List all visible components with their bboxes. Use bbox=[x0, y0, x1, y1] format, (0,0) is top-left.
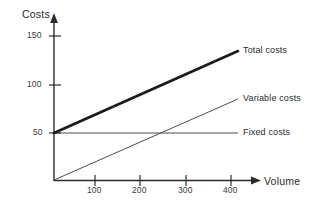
series-line-variable-costs bbox=[54, 99, 238, 180]
x-axis bbox=[54, 177, 261, 185]
x-tick-label-200: 200 bbox=[132, 186, 146, 195]
cost-volume-chart: Costs Volume 150 100 50 100 200 300 400 … bbox=[0, 0, 314, 208]
y-axis-title: Costs bbox=[22, 9, 50, 20]
y-tick-label-50: 50 bbox=[33, 128, 43, 137]
x-axis-title: Volume bbox=[264, 176, 300, 187]
x-tick-label-100: 100 bbox=[87, 186, 101, 195]
series-label-total-costs: Total costs bbox=[243, 46, 287, 55]
series-line-total-costs bbox=[54, 51, 238, 133]
x-axis-arrowhead bbox=[251, 177, 261, 185]
x-tick-label-400: 400 bbox=[223, 186, 237, 195]
y-tick-label-100: 100 bbox=[27, 80, 41, 89]
series-label-variable-costs: Variable costs bbox=[243, 94, 301, 103]
y-tick-label-150: 150 bbox=[27, 31, 41, 40]
y-axis-ticks bbox=[49, 36, 61, 133]
y-axis-arrowhead bbox=[50, 13, 58, 23]
series-label-fixed-costs: Fixed costs bbox=[243, 128, 290, 137]
x-tick-label-300: 300 bbox=[178, 186, 192, 195]
y-axis bbox=[50, 13, 58, 181]
